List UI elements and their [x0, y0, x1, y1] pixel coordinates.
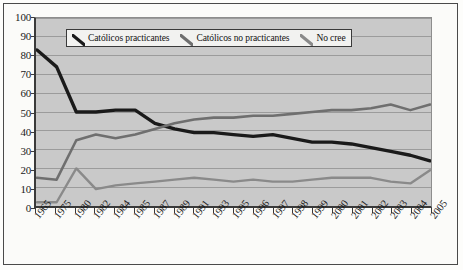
legend-label: No cree — [316, 33, 345, 43]
legend-label: Católicos practicantes — [88, 33, 169, 43]
x-axis-labels: 1965197519801982198419851987198919911993… — [34, 212, 444, 264]
chart-figure: 0102030405060708090100 19651975198019821… — [0, 0, 463, 270]
legend-item[interactable]: Católicos no practicantes — [180, 32, 289, 44]
legend-label: Católicos no practicantes — [196, 33, 289, 43]
legend-item[interactable]: Católicos practicantes — [72, 32, 169, 44]
legend-line-icon — [72, 32, 85, 44]
chart-legend: Católicos practicantesCatólicos no pract… — [66, 29, 352, 47]
legend-item[interactable]: No cree — [300, 32, 345, 44]
legend-line-icon — [300, 32, 313, 44]
legend-line-icon — [180, 32, 193, 44]
